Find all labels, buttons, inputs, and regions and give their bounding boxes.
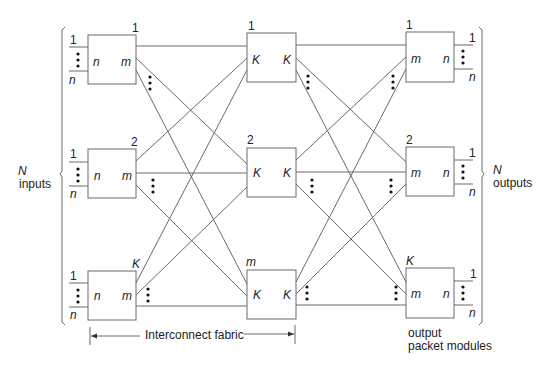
output-module-1-port-first: 1 <box>469 32 476 44</box>
output-modules-label-line1: output <box>408 327 441 339</box>
output-module-K-right-label: n <box>443 288 450 300</box>
right-brace <box>479 27 484 325</box>
output-module-K-port-last: n <box>469 307 476 319</box>
input-module-1-index: 1 <box>132 22 139 34</box>
input-module-1-left-label: n <box>93 56 100 68</box>
output-module-1-port-last: n <box>469 71 476 83</box>
output-modules-label-line2: packet modules <box>408 340 492 352</box>
middle-module-1-right-label: K <box>283 54 291 66</box>
middle-module-1-left-label: K <box>252 54 260 66</box>
output-module-K-left-label: m <box>411 288 421 300</box>
input-module-2-port-first: 1 <box>70 148 77 160</box>
left-brace <box>60 27 65 325</box>
output-module-1-right-label: n <box>443 53 450 65</box>
middle-module-m-index: m <box>246 256 256 268</box>
n-inputs-label: inputs <box>19 178 51 190</box>
interconnect-fabric-label: Interconnect fabric <box>145 329 244 341</box>
input-module-1-port-first: 1 <box>70 34 77 46</box>
input-module-K-port-last: n <box>70 309 77 321</box>
middle-module-1-index: 1 <box>248 20 255 32</box>
input-module-1-port-last: n <box>69 74 76 86</box>
n-inputs-symbol: N <box>18 165 27 177</box>
output-module-2-right-label: n <box>443 167 450 179</box>
arrowhead-right <box>288 332 294 337</box>
output-module-2-left-label: m <box>411 167 421 179</box>
n-outputs-symbol: N <box>493 164 502 176</box>
input-module-2-right-label: m <box>122 170 132 182</box>
middle-module-2-index: 2 <box>247 134 254 146</box>
input-module-K-port-first: 1 <box>70 270 77 282</box>
output-module-1-left-label: m <box>411 53 421 65</box>
input-module-K-right-label: m <box>122 290 132 302</box>
input-module-2-port-last: n <box>70 188 77 200</box>
output-module-K-index: K <box>406 255 414 267</box>
output-module-2-index: 2 <box>406 134 413 146</box>
input-module-2-left-label: n <box>94 170 101 182</box>
input-module-K-left-label: n <box>94 290 101 302</box>
output-module-2-port-first: 1 <box>469 147 476 159</box>
middle-module-m-left-label: K <box>253 289 261 301</box>
input-module-2-index: 2 <box>131 136 138 148</box>
input-module-K-index: K <box>132 258 140 270</box>
middle-module-m-right-label: K <box>283 289 291 301</box>
output-module-2-port-last: n <box>469 186 476 198</box>
output-module-1-index: 1 <box>406 19 413 31</box>
arrowhead-left <box>91 334 97 339</box>
input-module-1-right-label: m <box>121 56 131 68</box>
n-outputs-label: outputs <box>493 177 532 189</box>
middle-module-2-left-label: K <box>253 167 261 179</box>
middle-module-2-right-label: K <box>283 167 291 179</box>
output-module-K-port-first: 1 <box>470 268 477 280</box>
